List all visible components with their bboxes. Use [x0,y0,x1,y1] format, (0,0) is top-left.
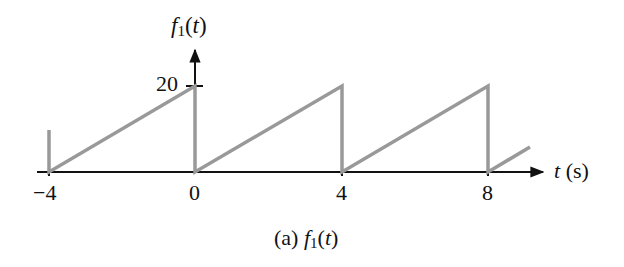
x-tick-label-8: 8 [482,182,493,204]
x-tick-label-4: 4 [336,182,347,204]
x-tick-label-neg4: −4 [33,182,56,204]
figure-caption: (a) f1(t) [274,227,338,251]
y-axis-label: f1(t) [171,14,207,39]
sawtooth-signal [49,86,530,172]
x-tick-label-0: 0 [189,182,200,204]
y-tick-label-20: 20 [156,73,178,95]
x-axis-label: t (s) [554,160,589,182]
